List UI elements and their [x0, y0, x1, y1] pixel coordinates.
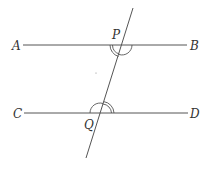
label-p: P [111, 28, 121, 42]
label-c: C [13, 107, 22, 121]
label-q: Q [84, 118, 94, 132]
label-b: B [189, 39, 199, 53]
parallel-lines-diagram: A B C D P Q [0, 0, 207, 171]
label-a: A [11, 39, 21, 53]
transversal-line [86, 8, 133, 158]
stray-dot [95, 72, 96, 73]
label-d: D [189, 107, 200, 121]
